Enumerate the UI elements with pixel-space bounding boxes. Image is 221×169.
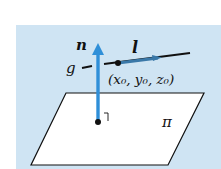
diagram-canvas: n l g (x₀, y₀, z₀) π [0,0,221,169]
point-x0y0z0 [115,60,121,66]
label-g: g [66,59,76,77]
label-l: l [132,38,138,57]
label-n: n [76,36,87,54]
label-point: (x₀, y₀, z₀) [108,71,174,87]
label-plane-pi: π [161,113,173,131]
foot-point [95,119,101,125]
